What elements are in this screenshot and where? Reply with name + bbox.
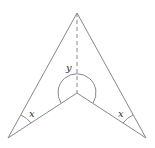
label-x-right: x	[118, 108, 124, 119]
arrowhead-shape	[8, 13, 146, 138]
arrowhead-diagram: y x x	[0, 0, 155, 148]
label-x-left: x	[29, 108, 35, 119]
angle-arc-x-right	[123, 115, 133, 123]
label-y: y	[65, 62, 72, 73]
